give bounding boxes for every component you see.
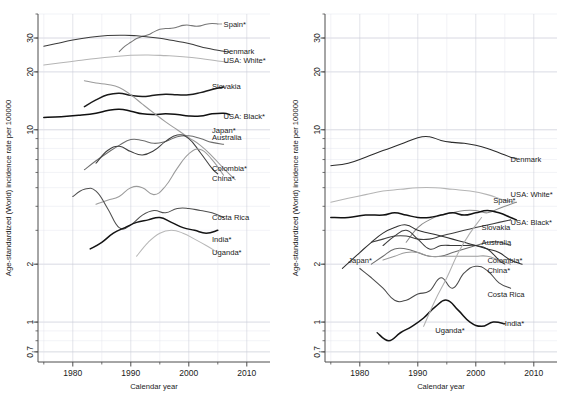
y-tick-label: 1: [312, 319, 322, 324]
series-line: [84, 87, 223, 107]
x-tick-label: 1980: [350, 368, 369, 378]
x-axis-title: Calendar year: [130, 382, 178, 391]
y-tick-label: 1: [25, 319, 35, 324]
series-line: [44, 55, 230, 65]
series-line: [90, 217, 218, 249]
series-group: [44, 23, 235, 256]
chart-left: 0.7121020301980199020002010Calendar year…: [0, 0, 287, 409]
y-tick-label: 10: [25, 125, 35, 135]
panel-right: 0.7121020301980199020002010Calendar year…: [287, 0, 574, 409]
series-label: USA: Black*: [224, 112, 265, 121]
y-tick-label: 0.7: [312, 346, 322, 358]
series-line: [96, 135, 218, 174]
series-label: India*: [505, 319, 524, 328]
series-label: Denmark: [224, 47, 255, 56]
x-axis-title: Calendar year: [417, 382, 465, 391]
y-tick-label: 30: [312, 33, 322, 43]
y-tick-label: 2: [25, 262, 35, 267]
series-label: India*: [212, 235, 231, 244]
series-line: [331, 211, 517, 220]
series-label: Japan*: [348, 256, 372, 265]
y-tick-label: 10: [312, 125, 322, 135]
y-tick-label: 20: [312, 67, 322, 77]
series-label: Spain*: [224, 20, 246, 29]
series-label: USA: White*: [224, 56, 266, 65]
gridlines: [38, 14, 270, 362]
series-label: China*: [212, 174, 235, 183]
x-tick-label: 1990: [121, 368, 140, 378]
series-label: Australia: [482, 238, 512, 247]
figure-root: 0.7121020301980199020002010Calendar year…: [0, 0, 574, 409]
y-tick-label: 20: [25, 67, 35, 77]
series-label: Slovakia: [212, 82, 241, 91]
series-labels: Spain*DenmarkUSA: White*SlovakiaUSA: Bla…: [212, 20, 266, 258]
series-label: Uganda*: [212, 248, 242, 257]
y-axis-title: Age-standardized (World) incidence rate …: [4, 100, 13, 276]
x-tick-label: 1980: [63, 368, 82, 378]
series-label: Spain*: [493, 196, 515, 205]
series-line: [137, 230, 218, 256]
series-line: [73, 188, 224, 229]
series-label: Slovakia: [482, 223, 511, 232]
series-label: Uganda*: [435, 326, 465, 335]
panel-left: 0.7121020301980199020002010Calendar year…: [0, 0, 287, 409]
series-label: Costa Rica: [487, 290, 525, 299]
series-label: Costa Rica: [212, 213, 250, 222]
x-tick-label: 2000: [466, 368, 485, 378]
series-label: Australia: [212, 133, 242, 142]
y-axis-title: Age-standardized (World) incidence rate …: [291, 100, 300, 276]
y-tick-label: 2: [312, 262, 322, 267]
series-label: Denmark: [511, 155, 542, 164]
series-line: [44, 109, 230, 117]
y-tick-label: 30: [25, 33, 35, 43]
chart-right: 0.7121020301980199020002010Calendar year…: [287, 0, 574, 409]
series-line: [331, 187, 517, 202]
x-tick-label: 2010: [237, 368, 256, 378]
series-label: China*: [487, 266, 510, 275]
y-tick-label: 0.7: [25, 346, 35, 358]
series-label: USA: Black*: [511, 218, 552, 227]
x-tick-label: 2010: [524, 368, 543, 378]
x-tick-label: 2000: [179, 368, 198, 378]
series-label: USA: White*: [511, 190, 553, 199]
series-label: Colombia*: [212, 164, 247, 173]
series-label: Colombia*: [487, 256, 522, 265]
series-line: [331, 136, 517, 165]
x-tick-label: 1990: [408, 368, 427, 378]
